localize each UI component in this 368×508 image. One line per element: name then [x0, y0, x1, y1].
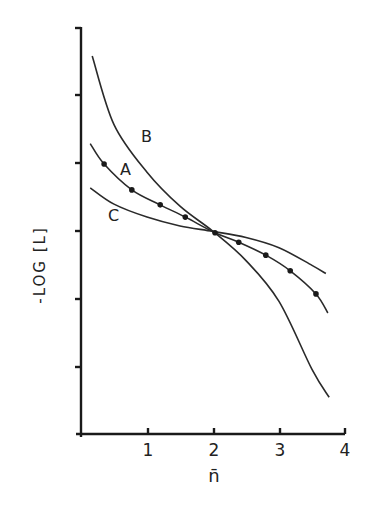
x-axis: [76, 428, 345, 434]
x-tick-1: 1: [143, 440, 154, 460]
data-point: [287, 268, 293, 274]
x-tick-2: 2: [209, 440, 220, 460]
curves: [90, 56, 329, 397]
curve-b: [92, 56, 329, 397]
data-point: [236, 239, 242, 245]
curve-label-c: C: [108, 206, 119, 225]
curve-label-a: A: [120, 160, 131, 179]
y-axis-label: -LOG [L]: [31, 226, 49, 304]
curve-c: [90, 188, 326, 274]
curve-label-b: B: [141, 127, 152, 146]
data-point: [182, 214, 188, 220]
data-point: [313, 291, 319, 297]
data-point: [263, 252, 269, 258]
data-point: [157, 202, 163, 208]
x-tick-3: 3: [275, 440, 286, 460]
data-point: [129, 187, 135, 193]
x-tick-4: 4: [340, 440, 351, 460]
y-axis: [75, 27, 81, 437]
chart-plot-area: [0, 0, 368, 508]
data-point: [101, 161, 107, 167]
data-point: [212, 230, 218, 236]
x-axis-label: n̄: [208, 465, 219, 486]
